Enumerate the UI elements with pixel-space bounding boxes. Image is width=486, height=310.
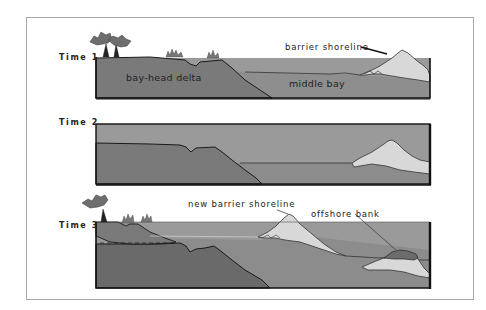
new-barrier-leader xyxy=(277,210,288,214)
new-barrier-shoreline-label: new barrier shoreline xyxy=(188,199,295,209)
offshore-bank-label: offshore bank xyxy=(311,209,380,219)
barrier-shoreline-label: barrier shoreline xyxy=(285,42,369,52)
time-2-label: Time 2 xyxy=(59,118,99,127)
time-1-label: Time 1 xyxy=(59,53,99,62)
time-3-label: Time 3 xyxy=(59,221,99,230)
tree-icon xyxy=(82,195,108,222)
panel-time-1 xyxy=(90,32,430,99)
bay-head-delta-label: bay-head delta xyxy=(126,72,202,83)
panel-time-2 xyxy=(96,124,431,185)
shrub-icon xyxy=(122,214,152,223)
middle-bay-label: middle bay xyxy=(289,78,345,89)
estuary-evolution-diagram xyxy=(0,0,486,310)
shrub-icon xyxy=(166,49,219,58)
